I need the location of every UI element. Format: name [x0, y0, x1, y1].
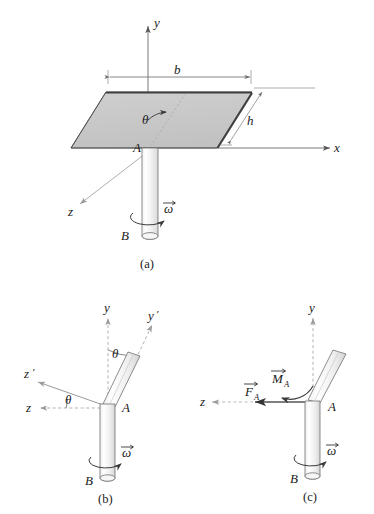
panel-a: y x z b h θ A B ω (a) [67, 15, 340, 271]
panel-b-omega-label: ω [121, 445, 133, 460]
plate-surface [71, 92, 252, 148]
panel-c-label-point-a: A [327, 399, 336, 414]
svg-text:y: y [146, 308, 154, 323]
panel-c-label-z: z [199, 394, 205, 409]
svg-text:A: A [253, 392, 260, 402]
panel-a-caption: (a) [140, 257, 154, 271]
technical-figure-svg: y x z b h θ A B ω (a) [0, 0, 374, 514]
panel-b-label-z: z [25, 400, 31, 415]
panel-b-z-prime-axis [38, 382, 106, 406]
svg-text:z: z [23, 366, 29, 381]
svg-text:A: A [283, 379, 290, 389]
panel-c: y z A B M A F A ω (c) [199, 300, 346, 504]
panel-a-label-point-a: A [132, 140, 141, 155]
svg-text:F: F [244, 384, 254, 399]
panel-c-label-y: y [307, 300, 315, 315]
panel-c-shaft-lower [305, 401, 320, 479]
panel-a-label-z: z [67, 204, 73, 219]
panel-c-shaft-upper [308, 350, 346, 403]
shaft-body-a [142, 148, 158, 239]
panel-b-label-theta-upper: θ [112, 346, 119, 361]
panel-b-label-theta-lower: θ [65, 392, 72, 407]
panel-c-label-point-b: B [290, 471, 298, 486]
panel-b: y y ′ z z ′ θ θ A B ω (b) [23, 300, 159, 506]
panel-c-force-label: F A [244, 382, 260, 402]
figure-root: y x z b h θ A B ω (a) [0, 0, 374, 514]
panel-a-label-y: y [152, 15, 160, 30]
panel-a-label-x: x [333, 140, 340, 155]
panel-a-label-theta: θ [142, 112, 149, 127]
panel-a-label-point-b: B [121, 228, 129, 243]
panel-b-caption: (b) [98, 492, 113, 506]
panel-b-label-y: y [102, 300, 110, 315]
panel-b-label-point-b: B [85, 473, 93, 488]
panel-c-caption: (c) [303, 490, 317, 504]
panel-c-shaft-bottom-cap [305, 473, 320, 479]
panel-b-label-point-a: A [121, 400, 130, 415]
panel-c-moment-label: M A [271, 369, 290, 389]
panel-a-omega-label: ω [163, 201, 175, 216]
panel-b-label-z-prime: z ′ [23, 366, 35, 381]
svg-text:M: M [271, 371, 284, 386]
svg-text:′: ′ [32, 366, 35, 378]
panel-b-shaft-lower [100, 404, 115, 481]
panel-b-shaft-bottom-cap [100, 475, 115, 481]
panel-a-label-h: h [247, 113, 254, 128]
panel-a-label-b: b [174, 62, 181, 77]
shaft-bottom-cap-a [142, 233, 158, 240]
panel-c-omega-label: ω [326, 443, 338, 458]
svg-text:′: ′ [156, 308, 159, 320]
panel-b-label-y-prime: y ′ [146, 308, 159, 323]
panel-c-shaft-upper-highlight [315, 351, 339, 400]
panel-a-z-axis [80, 150, 150, 204]
